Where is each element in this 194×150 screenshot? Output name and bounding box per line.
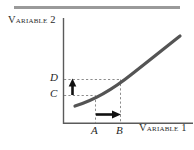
horizontal-change-arrow	[96, 110, 121, 118]
chart-canvas	[0, 0, 194, 150]
vertical-change-arrow	[69, 79, 77, 96]
chart-figure: Variable 2 Variable 1 D C A B	[0, 0, 194, 150]
